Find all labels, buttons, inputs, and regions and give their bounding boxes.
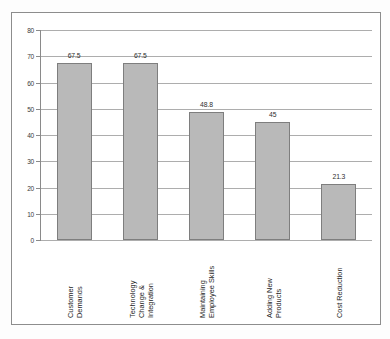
category-label: Cost Reduction [335, 267, 344, 318]
gridline [41, 56, 372, 57]
plot-area [41, 30, 372, 240]
bar [255, 122, 290, 240]
y-tick-mark [36, 135, 40, 136]
category-label-line: Technology [128, 281, 137, 318]
gridline [41, 240, 372, 241]
y-tick-label: 20 [8, 184, 34, 191]
y-tick-mark [36, 240, 40, 241]
y-tick-mark [36, 30, 40, 31]
y-tick-mark [36, 83, 40, 84]
category-label-line: Cost Reduction [335, 267, 344, 318]
y-tick-mark [36, 188, 40, 189]
y-tick-mark [36, 109, 40, 110]
bar [189, 112, 224, 240]
y-tick-label: 0 [8, 237, 34, 244]
bar-chart-figure: 01020304050607080 67.567.548.84521.3 Cus… [0, 0, 390, 339]
y-tick-label: 30 [8, 158, 34, 165]
y-tick-mark [36, 56, 40, 57]
category-label: TechnologyChange &Integration [128, 281, 156, 318]
y-tick-label: 80 [8, 27, 34, 34]
category-label-line: Integration [146, 281, 155, 318]
y-tick-mark [36, 214, 40, 215]
category-label-line: Products [274, 278, 283, 318]
category-label-line: Maintaining [198, 266, 207, 318]
category-label-line: Change & [137, 281, 146, 318]
bar-value-label: 67.5 [68, 52, 81, 59]
category-label: Adding NewProducts [265, 278, 283, 318]
category-label: MaintainingEmployee Skills [198, 266, 216, 318]
category-label: CustomerDemands [66, 286, 84, 318]
gridline [41, 30, 372, 31]
y-tick-label: 40 [8, 132, 34, 139]
bar [57, 63, 92, 240]
category-label-line: Adding New [265, 278, 274, 318]
bar-value-label: 48.8 [200, 101, 213, 108]
bar [321, 184, 356, 240]
bar-value-label: 45 [269, 111, 276, 118]
y-tick-label: 60 [8, 79, 34, 86]
bar [123, 63, 158, 240]
category-label-line: Demands [75, 286, 84, 318]
bar-value-label: 21.3 [332, 173, 345, 180]
category-label-line: Employee Skills [208, 266, 217, 318]
y-tick-label: 70 [8, 53, 34, 60]
y-axis-tick-labels: 01020304050607080 [0, 0, 34, 339]
y-tick-label: 10 [8, 210, 34, 217]
y-tick-label: 50 [8, 105, 34, 112]
y-tick-mark [36, 161, 40, 162]
category-label-line: Customer [66, 286, 75, 318]
bar-value-label: 67.5 [134, 52, 147, 59]
